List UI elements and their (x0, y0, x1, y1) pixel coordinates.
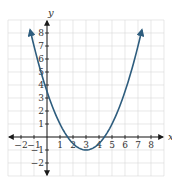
parabola-chart: −2−112345678−2−112345678 x y (0, 0, 172, 182)
y-axis-label: y (47, 7, 54, 18)
y-tick-label: 6 (38, 54, 44, 64)
y-tick-label: 1 (38, 119, 44, 129)
x-tick-label: 8 (148, 140, 154, 150)
y-tick-label: 3 (38, 93, 44, 103)
y-tick-label: −1 (31, 145, 44, 155)
x-tick-label: 6 (122, 140, 128, 150)
y-tick-label: 8 (38, 28, 44, 38)
y-tick-label: 2 (38, 106, 44, 116)
y-tick-label: −2 (31, 158, 44, 168)
x-tick-label: 1 (57, 140, 63, 150)
y-tick-label: 7 (38, 41, 44, 51)
x-tick-label: 7 (135, 140, 141, 150)
x-tick-label: −2 (14, 140, 27, 150)
x-axis-label: x (168, 131, 172, 142)
x-tick-label: 3 (83, 140, 89, 150)
x-tick-label: 5 (109, 140, 115, 150)
